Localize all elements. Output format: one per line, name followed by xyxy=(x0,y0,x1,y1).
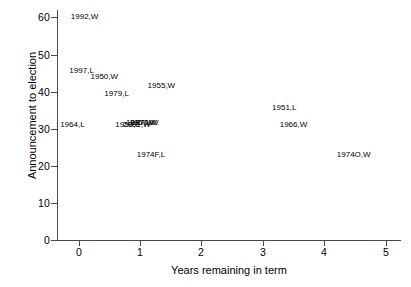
y-tick-mark xyxy=(51,92,57,93)
data-point-label: 1979,L xyxy=(104,90,128,98)
y-tick-mark xyxy=(51,17,57,18)
y-tick-mark xyxy=(51,129,57,130)
data-point-label: 1950,W xyxy=(91,73,119,81)
x-axis-line xyxy=(57,240,401,241)
y-axis-line xyxy=(57,10,58,241)
x-tick-label: 2 xyxy=(191,247,211,258)
x-tick-label: 5 xyxy=(376,247,396,258)
x-tick-label: 3 xyxy=(253,247,273,258)
data-point-label: 1974F,L xyxy=(137,151,165,159)
scatter-chart: 0102030405060 012345 1992,W1997,L1950,W1… xyxy=(0,0,411,287)
data-point-label: 1964,L xyxy=(60,121,84,129)
y-axis-title: Announcement to election xyxy=(27,16,38,216)
data-point-label: 1970,W xyxy=(131,119,159,127)
y-tick-mark xyxy=(51,203,57,204)
x-axis-title: Years remaining in term xyxy=(57,265,401,276)
data-point-label: 1966,W xyxy=(280,121,308,129)
y-tick-mark xyxy=(51,240,57,241)
data-point-label: 1955,W xyxy=(148,82,176,90)
x-tick-label: 0 xyxy=(69,247,89,258)
y-tick-mark xyxy=(51,55,57,56)
data-point-label: 1974O,W xyxy=(337,151,371,159)
data-point-label: 1951,L xyxy=(272,104,296,112)
data-point-label: 1992,W xyxy=(71,13,99,21)
x-tick-label: 4 xyxy=(314,247,334,258)
x-tick-label: 1 xyxy=(130,247,150,258)
y-tick-mark xyxy=(51,166,57,167)
y-tick-label: 0 xyxy=(28,235,50,246)
